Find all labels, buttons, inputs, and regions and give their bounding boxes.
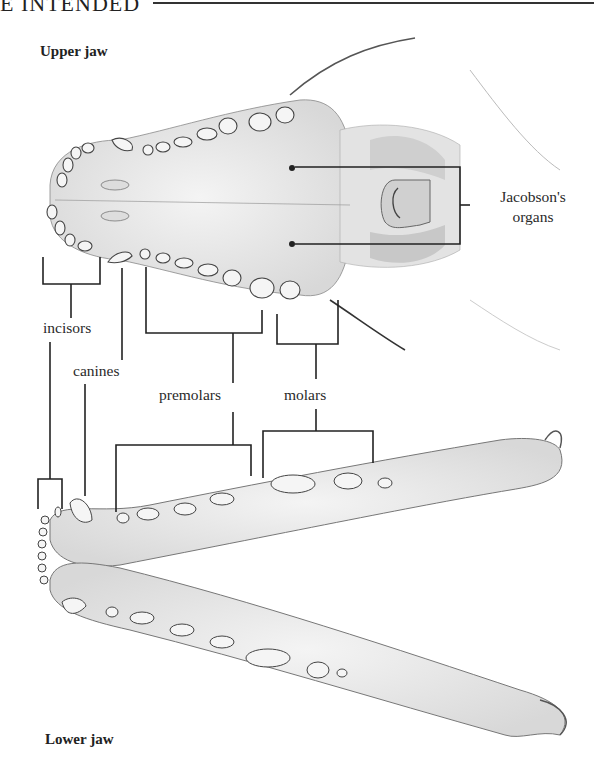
incisors-label: incisors	[43, 320, 91, 336]
jacobson-label-line1: Jacobson's	[478, 187, 588, 207]
molars-label: molars	[284, 387, 326, 403]
jacobson-label-line2: organs	[478, 207, 588, 227]
lower-jaw-drawing	[38, 431, 566, 736]
canines-label: canines	[73, 363, 119, 379]
premolars-label: premolars	[159, 387, 221, 403]
jacobson-label: Jacobson's organs	[478, 187, 588, 227]
